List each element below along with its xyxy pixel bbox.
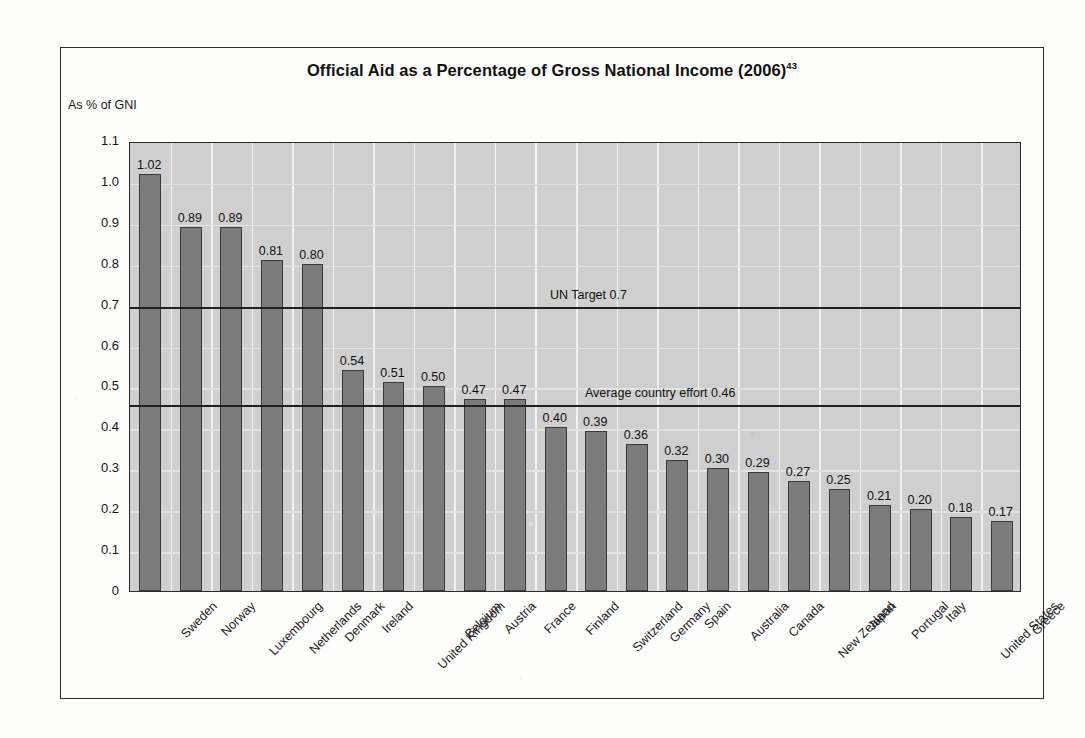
bar[interactable] [869, 505, 891, 591]
gridline-vertical [576, 143, 578, 591]
y-axis-tick-label: 1.0 [71, 174, 119, 189]
bar[interactable] [342, 370, 364, 591]
bar[interactable] [707, 468, 729, 591]
bar-value-label: 0.30 [698, 452, 736, 466]
bar-value-label: 1.02 [130, 158, 168, 172]
bar[interactable] [666, 460, 688, 591]
bar[interactable] [139, 174, 161, 591]
y-axis-tick-label: 0.4 [71, 419, 119, 434]
bar-value-label: 0.25 [820, 473, 858, 487]
bar[interactable] [829, 489, 851, 591]
x-axis-category-label: Australia [747, 599, 791, 643]
bar[interactable] [950, 517, 972, 591]
bar-value-label: 0.21 [860, 489, 898, 503]
bar[interactable] [585, 431, 607, 591]
gridline-vertical [292, 143, 294, 591]
bar[interactable] [261, 260, 283, 591]
bar[interactable] [748, 472, 770, 591]
y-axis-tick-label: 0.7 [71, 297, 119, 312]
bar[interactable] [302, 264, 324, 591]
bar[interactable] [910, 509, 932, 591]
bar-value-label: 0.17 [982, 505, 1020, 519]
bar-value-label: 0.47 [455, 383, 493, 397]
y-axis-tick-label: 0 [71, 583, 119, 598]
reference-line [130, 307, 1020, 309]
y-axis-tick-label: 0.3 [71, 460, 119, 475]
gridline-vertical [941, 143, 943, 591]
y-axis-tick-label: 0.1 [71, 542, 119, 557]
bar-value-label: 0.50 [414, 370, 452, 384]
gridline-vertical [535, 143, 537, 591]
bar[interactable] [504, 399, 526, 591]
y-axis-tick-label: 0.9 [71, 215, 119, 230]
gridline-vertical [738, 143, 740, 591]
bar-value-label: 0.89 [211, 211, 249, 225]
gridline-vertical [819, 143, 821, 591]
gridline-vertical [779, 143, 781, 591]
bar-value-label: 0.27 [779, 465, 817, 479]
x-axis-category-label: Belgium [462, 599, 504, 641]
bar[interactable] [383, 382, 405, 591]
bar-value-label: 0.29 [739, 456, 777, 470]
bar[interactable] [545, 427, 567, 591]
chart-title-text: Official Aid as a Percentage of Gross Na… [307, 61, 786, 79]
gridline-horizontal [130, 184, 1020, 186]
reference-line-label: UN Target 0.7 [550, 288, 627, 302]
bar-value-label: 0.40 [536, 411, 574, 425]
x-axis-category-label: France [542, 599, 579, 636]
bar-value-label: 0.81 [252, 244, 290, 258]
bar-value-label: 0.89 [171, 211, 209, 225]
x-axis-category-label: Ireland [379, 599, 416, 636]
x-axis-category-label: Sweden [179, 599, 221, 641]
bar-value-label: 0.54 [333, 354, 371, 368]
y-axis-tick-label: 0.5 [71, 378, 119, 393]
bar[interactable] [626, 444, 648, 591]
bar-value-label: 0.18 [941, 501, 979, 515]
x-axis-category-label: Norway [218, 599, 258, 639]
bar-value-label: 0.51 [374, 366, 412, 380]
plot-area: UN Target 0.7Average country effort 0.46 [129, 142, 1021, 592]
gridline-vertical [252, 143, 254, 591]
bar[interactable] [180, 227, 202, 591]
reference-line [130, 405, 1020, 407]
y-axis-tick-label: 1.1 [71, 133, 119, 148]
bar[interactable] [464, 399, 486, 591]
chart-title: Official Aid as a Percentage of Gross Na… [61, 60, 1043, 80]
gridline-horizontal [130, 225, 1020, 227]
bar-value-label: 0.47 [495, 383, 533, 397]
chart-title-footnote-marker: 43 [786, 60, 797, 71]
gridline-vertical [617, 143, 619, 591]
x-axis-category-label: Austria [501, 599, 538, 636]
gridline-vertical [454, 143, 456, 591]
gridline-vertical [860, 143, 862, 591]
y-axis-tick-label: 0.6 [71, 338, 119, 353]
figure-frame: Official Aid as a Percentage of Gross Na… [60, 47, 1044, 699]
bar[interactable] [788, 481, 810, 591]
gridline-vertical [495, 143, 497, 591]
bar[interactable] [220, 227, 242, 591]
gridline-vertical [981, 143, 983, 591]
bar[interactable] [991, 521, 1013, 591]
gridline-vertical [414, 143, 416, 591]
bar[interactable] [423, 386, 445, 591]
gridline-vertical [698, 143, 700, 591]
bar-value-label: 0.20 [901, 493, 939, 507]
bar-value-label: 0.80 [293, 248, 331, 262]
reference-line-label: Average country effort 0.46 [585, 386, 735, 400]
gridline-vertical [657, 143, 659, 591]
gridline-vertical [900, 143, 902, 591]
bar-value-label: 0.32 [657, 444, 695, 458]
y-axis-tick-label: 0.8 [71, 256, 119, 271]
bar-value-label: 0.39 [576, 415, 614, 429]
bar-value-label: 0.36 [617, 428, 655, 442]
x-axis-category-label: Portugal [909, 599, 952, 642]
y-axis-title: As % of GNI [68, 98, 137, 112]
x-axis-category-label: Canada [786, 599, 827, 640]
x-axis-category-label: Finland [583, 599, 622, 638]
y-axis-tick-label: 0.2 [71, 501, 119, 516]
